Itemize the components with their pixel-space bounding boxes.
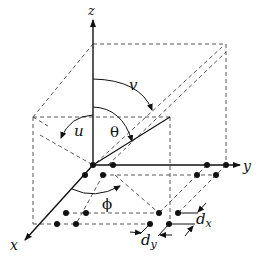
x-axis-label: x [10, 237, 18, 253]
v-arc [93, 79, 152, 110]
diagram-canvas: z y x v θ u ϕ dx dy [0, 0, 266, 263]
phi-label: ϕ [102, 195, 112, 213]
theta-label: θ [110, 123, 119, 141]
z-axis-label: z [87, 3, 95, 18]
dy-label: dy [141, 231, 158, 251]
v-label: v [129, 76, 138, 94]
coordinate-diagram: z y x v θ u ϕ dx dy [0, 0, 266, 263]
dx-label: dx [196, 210, 213, 230]
y-axis-label: y [242, 158, 252, 174]
u-label: u [74, 122, 84, 140]
